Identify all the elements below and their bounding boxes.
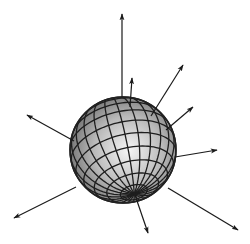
arrow-right — [175, 150, 217, 157]
arrow-right-upper — [166, 107, 193, 130]
arrow-left — [27, 115, 74, 141]
arrow-upper-right — [151, 65, 183, 116]
arrow-bottom — [135, 195, 148, 233]
sphere-vector-diagram — [0, 0, 250, 244]
diagram-canvas — [0, 0, 250, 244]
arrow-lower-right — [168, 188, 238, 230]
arrow-lower-left — [14, 187, 76, 218]
